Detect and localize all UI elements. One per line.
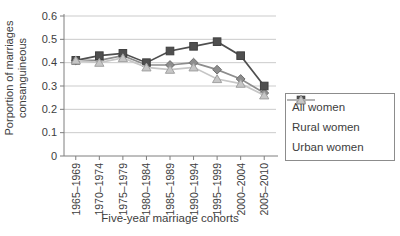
x-tick-label: 1990–1994: [188, 163, 200, 216]
legend: All women Rural women Urban women: [285, 93, 395, 161]
legend-label: Rural women: [292, 121, 360, 133]
y-tick-label: 0.1: [42, 126, 57, 138]
x-tick-label: 1985–1989: [164, 163, 176, 216]
triangle-marker-icon: [286, 94, 316, 106]
y-tick-label: 0: [51, 150, 57, 162]
axes: [64, 14, 278, 156]
x-tick-label: 2005–2010: [258, 163, 270, 216]
x-axis-title: Five-year marriage cohorts: [64, 212, 276, 224]
legend-item-urban-women: Urban women: [292, 141, 394, 153]
y-tick-label: 0.2: [42, 103, 57, 115]
y-axis-ticks: 00.10.20.30.40.50.6: [42, 10, 64, 162]
x-tick-label: 1975–1979: [117, 163, 129, 216]
legend-label: Urban women: [292, 141, 364, 153]
consanguinity-line-chart: 00.10.20.30.40.50.61965–19691970–1974197…: [0, 0, 400, 236]
y-tick-label: 0.3: [42, 80, 57, 92]
y-tick-label: 0.5: [42, 33, 57, 45]
x-tick-label: 1970–1974: [93, 163, 105, 216]
gridlines: [64, 16, 276, 133]
y-tick-label: 0.6: [42, 10, 57, 22]
y-axis-title-line1: Porportion of marriages: [3, 21, 15, 136]
x-tick-label: 1995–1999: [211, 163, 223, 216]
y-axis-title-line2: consanguineous: [16, 38, 28, 118]
x-tick-label: 2000–2004: [235, 163, 247, 216]
x-tick-label: 1980–1984: [140, 163, 152, 216]
y-axis-title: Porportion of marriages consanguineous: [3, 2, 30, 154]
y-tick-label: 0.4: [42, 56, 57, 68]
x-axis-ticks: 1965–19691970–19741975–19791980–19841985…: [70, 156, 270, 216]
x-tick-label: 1965–1969: [70, 163, 82, 216]
legend-item-rural-women: Rural women: [292, 121, 394, 133]
